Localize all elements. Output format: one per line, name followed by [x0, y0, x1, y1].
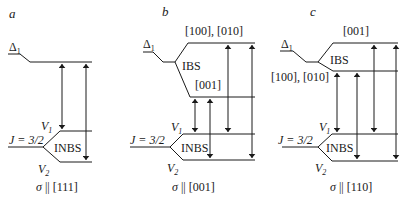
- v2-label: V2: [167, 161, 178, 177]
- caption-c: σ || [110]: [330, 180, 372, 194]
- delta1-line: [143, 52, 175, 62]
- energy-level-diagram: a Δ1 J = 3/2 V1 V2 INBS σ || [111] b: [0, 0, 405, 203]
- v2-label: V2: [315, 161, 326, 177]
- delta1-line: [280, 51, 318, 62]
- ibs-label: IBS: [182, 59, 201, 73]
- inbs-label: INBS: [54, 141, 81, 155]
- j-level: J = 3/2 V1 V2 INBS: [278, 120, 398, 177]
- j-level: J = 3/2 V1 V2 INBS: [130, 120, 255, 177]
- caption-a: σ || [111]: [36, 180, 78, 194]
- delta1-level: Δ1: [8, 40, 92, 62]
- panel-a: a Δ1 J = 3/2 V1 V2 INBS σ || [111]: [8, 6, 92, 194]
- lower-direction-label: [100], [010]: [271, 70, 329, 84]
- delta1-label: Δ1: [9, 40, 21, 56]
- v1-label: V1: [171, 120, 182, 136]
- panel-letter-b: b: [162, 4, 169, 19]
- upper-direction-label: [100], [010]: [185, 24, 243, 38]
- inbs-label: INBS: [181, 141, 208, 155]
- delta1-level: Δ1 IBS [100], [010] [001]: [143, 24, 255, 97]
- j-level: J = 3/2 V1 V2 INBS: [8, 119, 92, 178]
- caption-b: σ || [001]: [172, 180, 215, 194]
- lower-direction-label: [001]: [195, 78, 221, 92]
- delta1-label: Δ1: [281, 37, 293, 53]
- inbs-label: INBS: [326, 141, 353, 155]
- delta1-level: Δ1 IBS [001] [100], [010]: [271, 24, 398, 84]
- ibs-label: IBS: [330, 53, 349, 67]
- j-label: J = 3/2: [130, 133, 165, 147]
- panel-b: b Δ1 IBS [100], [010] [001] J = 3/2 V1 V…: [130, 4, 255, 194]
- panel-letter-c: c: [310, 4, 316, 19]
- v2-label: V2: [38, 162, 49, 178]
- panel-letter-a: a: [9, 6, 16, 21]
- v1-label: V1: [41, 119, 52, 135]
- v1-label: V1: [319, 120, 330, 136]
- upper-direction-label: [001]: [343, 24, 369, 38]
- panel-c: c Δ1 IBS [001] [100], [010] J = 3/2 V1 V…: [271, 4, 398, 194]
- delta1-label: Δ1: [143, 37, 155, 53]
- j-label: J = 3/2: [9, 133, 44, 147]
- j-label: J = 3/2: [278, 133, 313, 147]
